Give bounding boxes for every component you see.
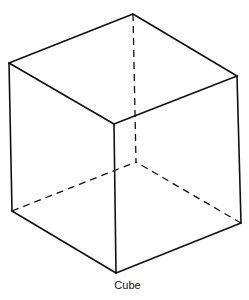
edge-top_back-top_right [133,14,237,76]
hidden-edge-bottom_left-bottom_back [12,162,136,211]
figure-caption: Cube [0,279,249,291]
edge-bottom_left-bottom_front [12,211,116,273]
edge-top_front-bottom_front [114,124,116,273]
edge-top_right-bottom_right [237,76,241,223]
edge-top_back-top_left [9,14,133,63]
edge-top_left-top_front [9,63,114,124]
edge-bottom_right-bottom_front [116,223,241,273]
hidden-edge-top_back-bottom_back [133,14,136,162]
cube-visible-edges [9,14,241,273]
edge-top_left-bottom_left [9,63,12,211]
hidden-edge-bottom_right-bottom_back [136,162,241,223]
cube-diagram [0,0,249,300]
edge-top_right-top_front [114,76,237,124]
